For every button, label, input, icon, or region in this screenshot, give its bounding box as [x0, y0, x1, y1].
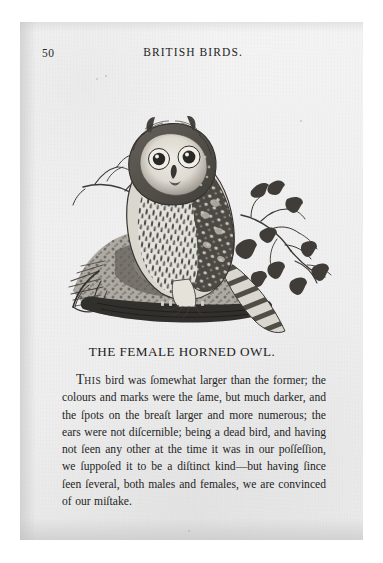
owl-engraving	[55, 95, 335, 340]
paper-edge-shadow-left	[20, 22, 36, 540]
scan-speck	[188, 530, 190, 532]
scan-speck	[96, 78, 98, 80]
paragraph-remainder: bird was ſomewhat larger than the former…	[62, 374, 326, 508]
paper-edge-shadow-bottom	[20, 518, 363, 540]
running-title: BRITISH BIRDS.	[58, 46, 328, 58]
body-text: THIS bird was ſomewhat larger than the f…	[62, 371, 326, 510]
paper-edge-shadow-top	[20, 22, 363, 32]
book-page: 50 BRITISH BIRDS.	[0, 0, 383, 563]
running-head: 50 BRITISH BIRDS.	[42, 46, 312, 62]
paragraph-initial-smallcaps: HIS	[84, 375, 101, 386]
body-paragraph: THIS bird was ſomewhat larger than the f…	[62, 371, 326, 510]
page-number: 50	[42, 47, 54, 59]
scan-speck	[105, 75, 107, 77]
plate-caption: THE FEMALE HORNED OWL.	[42, 344, 322, 360]
